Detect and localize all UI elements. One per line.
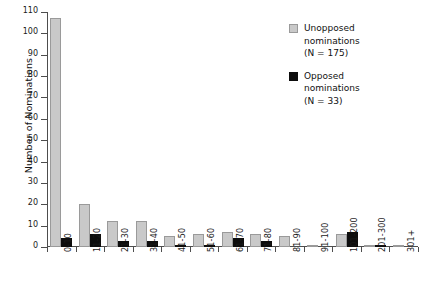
y-axis-tick-label: 80 xyxy=(28,70,38,79)
y-axis-tick-label: 70 xyxy=(28,91,38,100)
y-axis-tick: 20 xyxy=(41,204,47,205)
legend-label-text: Unopposed xyxy=(304,22,425,35)
y-axis-tick: 40 xyxy=(41,162,47,163)
y-axis-tick: 50 xyxy=(41,140,47,141)
x-axis-label: 41-50 xyxy=(178,228,187,252)
x-axis-label: 81-90 xyxy=(293,228,302,252)
bar-unopposed xyxy=(250,234,261,247)
bar-unopposed xyxy=(222,232,233,247)
bar-unopposed xyxy=(336,234,347,247)
x-axis-label: 51-60 xyxy=(207,228,216,252)
x-axis-label: 31-40 xyxy=(150,228,159,252)
y-axis-tick-label: 110 xyxy=(23,6,38,15)
x-axis-tick xyxy=(418,247,419,252)
y-axis-line xyxy=(47,12,48,247)
bar-unopposed xyxy=(279,236,290,247)
x-axis-tick xyxy=(47,247,48,252)
bar-chart: Number of Nominations 010203040506070809… xyxy=(0,0,429,288)
y-axis-tick-label: 0 xyxy=(33,241,38,250)
x-axis-label: 301+ xyxy=(407,229,416,252)
x-axis-tick xyxy=(389,247,390,252)
legend-label-text: Opposed xyxy=(304,70,425,83)
y-axis-tick-label: 100 xyxy=(23,27,38,36)
y-axis-tick-label: 20 xyxy=(28,198,38,207)
y-axis-tick-label: 30 xyxy=(28,177,38,186)
x-axis-tick xyxy=(218,247,219,252)
y-axis-tick: 10 xyxy=(41,226,47,227)
bar-unopposed xyxy=(307,245,318,247)
y-axis-tick-label: 90 xyxy=(28,49,38,58)
y-axis-tick: 90 xyxy=(41,55,47,56)
y-axis-tick-label: 10 xyxy=(28,220,38,229)
legend-label-text: (N = 175) xyxy=(304,47,425,60)
x-axis-tick xyxy=(161,247,162,252)
x-axis-label: 71-80 xyxy=(264,228,273,252)
x-axis-label: 101-200 xyxy=(350,217,359,252)
x-axis-label: 61-70 xyxy=(236,228,245,252)
x-axis-label: 91-100 xyxy=(321,222,330,252)
bar-unopposed xyxy=(107,221,118,247)
chart-legend: Unopposednominations(N = 175)Opposednomi… xyxy=(289,22,425,117)
legend-label-text: (N = 33) xyxy=(304,95,425,108)
bar-unopposed xyxy=(50,18,61,247)
y-axis-tick: 60 xyxy=(41,119,47,120)
x-axis-label: 11-20 xyxy=(93,228,102,252)
x-axis-tick xyxy=(190,247,191,252)
x-axis-tick xyxy=(275,247,276,252)
x-axis-tick xyxy=(104,247,105,252)
x-axis-tick xyxy=(247,247,248,252)
x-axis-tick xyxy=(361,247,362,252)
x-axis-label: 201-300 xyxy=(378,217,387,252)
y-axis-tick: 80 xyxy=(41,76,47,77)
x-axis-label: 0-10 xyxy=(64,233,73,252)
x-axis-tick xyxy=(76,247,77,252)
x-axis-tick xyxy=(332,247,333,252)
bar-unopposed xyxy=(364,245,375,247)
x-axis-tick xyxy=(304,247,305,252)
bar-unopposed xyxy=(393,245,404,247)
y-axis-tick-label: 40 xyxy=(28,156,38,165)
bar-unopposed xyxy=(193,234,204,247)
legend-entry: Unopposednominations(N = 175) xyxy=(289,22,425,60)
legend-swatch-opposed xyxy=(289,72,298,81)
y-axis-tick: 70 xyxy=(41,97,47,98)
legend-label-text: nominations xyxy=(304,35,425,48)
y-axis-tick-label: 50 xyxy=(28,134,38,143)
x-axis-tick xyxy=(133,247,134,252)
bar-unopposed xyxy=(79,204,90,247)
legend-entry: Opposednominations(N = 33) xyxy=(289,70,425,108)
y-axis-tick: 100 xyxy=(41,33,47,34)
y-axis-tick: 110 xyxy=(41,12,47,13)
y-axis-tick: 30 xyxy=(41,183,47,184)
legend-label-text: nominations xyxy=(304,82,425,95)
bar-unopposed xyxy=(136,221,147,247)
legend-swatch-unopposed xyxy=(289,24,298,33)
bar-unopposed xyxy=(164,236,175,247)
x-axis-label: 21-30 xyxy=(121,228,130,252)
y-axis-tick-label: 60 xyxy=(28,113,38,122)
